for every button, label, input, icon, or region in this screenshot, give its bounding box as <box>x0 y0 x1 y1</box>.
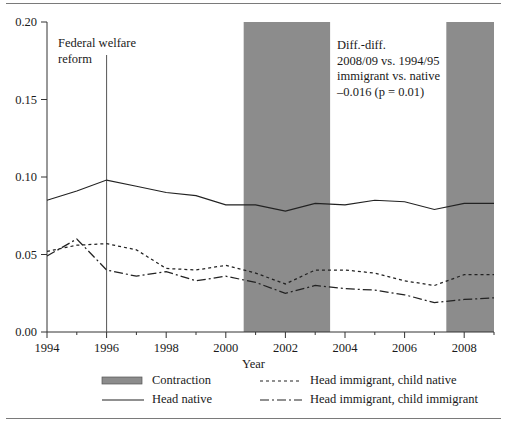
plot-area: 0.000.050.100.150.2019941996199820002002… <box>0 0 507 360</box>
welfare-reform-line-1: Federal welfare <box>58 36 136 52</box>
legend-item-head-native[interactable]: Head native <box>100 390 250 409</box>
diff-in-diff-line-3: immigrant vs. native <box>337 69 440 85</box>
x-tick-label-6: 2006 <box>392 341 417 355</box>
legend-item-head-immigrant-child-immigrant[interactable]: Head immigrant, child immigrant <box>258 390 507 409</box>
x-tick-label-5: 2004 <box>333 341 359 355</box>
legend-item-contraction[interactable]: Contraction <box>100 371 250 390</box>
y-tick-label-1: 0.05 <box>15 248 37 262</box>
legend-column-left: ContractionHead native <box>100 371 250 409</box>
y-tick-label-4: 0.20 <box>15 15 37 29</box>
y-tick-label-0: 0.00 <box>15 325 37 339</box>
legend-swatch-dashed-icon <box>258 374 304 388</box>
y-tick-label-3: 0.15 <box>15 93 37 107</box>
x-tick-label-3: 2000 <box>213 341 238 355</box>
welfare-reform-line-2: reform <box>58 52 136 68</box>
legend-label: Contraction <box>152 373 211 388</box>
chart-legend: ContractionHead native Head immigrant, c… <box>0 371 507 413</box>
y-tick-label-2: 0.10 <box>15 170 37 184</box>
legend-swatch-band-icon <box>100 374 146 388</box>
x-tick-label-4: 2002 <box>273 341 298 355</box>
diff-in-diff-annotation: Diff.-diff.2008/09 vs. 1994/95immigrant … <box>337 38 440 100</box>
x-tick-label-0: 1994 <box>35 341 61 355</box>
x-tick-label-1: 1996 <box>94 341 119 355</box>
legend-label: Head native <box>152 392 212 407</box>
x-axis-title: Year <box>0 357 507 372</box>
legend-column-right: Head immigrant, child nativeHead immigra… <box>258 371 507 409</box>
legend-label: Head immigrant, child native <box>310 373 456 388</box>
legend-swatch-solid-icon <box>100 393 146 407</box>
figure-bottom-rule <box>6 418 501 419</box>
figure-container: 0.000.050.100.150.2019941996199820002002… <box>0 0 507 428</box>
diff-in-diff-line-4: –0.016 (p = 0.01) <box>337 85 440 101</box>
legend-swatch-dashdot-icon <box>258 393 304 407</box>
legend-item-head-immigrant-child-native[interactable]: Head immigrant, child native <box>258 371 507 390</box>
x-tick-label-7: 2008 <box>452 341 477 355</box>
contraction-band-2 <box>446 22 494 332</box>
legend-label: Head immigrant, child immigrant <box>310 392 478 407</box>
diff-in-diff-line-2: 2008/09 vs. 1994/95 <box>337 54 440 70</box>
welfare-reform-annotation: Federal welfarereform <box>58 36 136 67</box>
diff-in-diff-line-1: Diff.-diff. <box>337 38 440 54</box>
x-tick-label-2: 1998 <box>154 341 179 355</box>
